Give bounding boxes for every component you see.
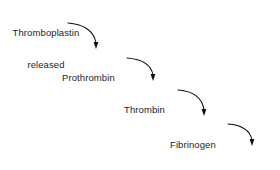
arrow-fibrinogen-to-fibrin-clot-head	[250, 139, 255, 146]
node-thrombin: Thrombin	[124, 84, 174, 137]
node-thrombin-label: Thrombin	[124, 105, 174, 116]
arrow-prothrombin-to-thrombin-head	[151, 74, 156, 81]
arrow-prothrombin-to-thrombin	[127, 58, 153, 75]
arrow-fibrinogen-to-fibrin-clot	[228, 124, 252, 140]
node-prothrombin-label: Prothrombin	[62, 73, 124, 84]
node-fibrinogen: Fibrinogen	[170, 119, 224, 170]
arrow-thrombin-to-fibrinogen	[178, 90, 204, 110]
cascade-diagram: Thromboplastin released Prothrombin Thro…	[0, 0, 280, 170]
arrow-thromboplastin-to-prothrombin-head	[94, 42, 99, 49]
node-fibrin-clot: Fibrin clot	[226, 149, 278, 170]
node-prothrombin: Prothrombin	[62, 52, 124, 105]
arrow-thrombin-to-fibrinogen-head	[202, 109, 207, 116]
node-thromboplastin-line-1: Thromboplastin	[4, 28, 88, 39]
node-fibrinogen-label: Fibrinogen	[170, 140, 224, 151]
